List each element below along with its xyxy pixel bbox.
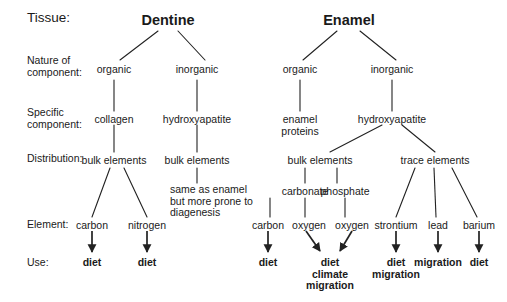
node-dentine-bulk-elements-organic: bulk elements bbox=[82, 155, 147, 167]
use-enamel-barium: diet bbox=[470, 257, 489, 269]
node-dentine-collagen: collagen bbox=[94, 114, 133, 126]
row-label-specific-component: Specific component: bbox=[27, 107, 82, 130]
node-enamel-carbon: carbon bbox=[252, 220, 284, 232]
node-enamel-lead: lead bbox=[428, 220, 448, 232]
node-enamel-organic: organic bbox=[283, 64, 317, 76]
edge-dentine-inorganic bbox=[178, 31, 205, 60]
row-label-tissue: Tissue: bbox=[27, 10, 70, 25]
edge-trace-strontium bbox=[396, 168, 415, 217]
node-dentine-carbon: carbon bbox=[76, 220, 108, 232]
row-label-use: Use: bbox=[27, 257, 49, 269]
edge-enamel-inorganic bbox=[360, 31, 396, 60]
node-enamel-phosphate: phosphate bbox=[320, 186, 369, 198]
node-enamel-proteins: enamel proteins bbox=[281, 114, 318, 137]
node-enamel-inorganic: inorganic bbox=[371, 64, 414, 76]
edge-hap-bulk bbox=[330, 125, 382, 152]
arrow-oxygen-phosphate-use bbox=[340, 231, 352, 251]
edge-trace-barium bbox=[452, 168, 477, 217]
node-enamel-bulk-elements: bulk elements bbox=[288, 155, 353, 167]
node-dentine-hydroxyapatite: hydroxyapatite bbox=[163, 114, 231, 126]
edge-enamel-organic bbox=[303, 31, 337, 60]
arrow-oxygen-carbonate-use bbox=[306, 231, 320, 251]
edge-bulk-carbon bbox=[92, 168, 110, 217]
row-label-distribution: Distribution: bbox=[27, 153, 82, 165]
node-dentine-organic: organic bbox=[97, 64, 131, 76]
node-dentine-nitrogen: nitrogen bbox=[128, 220, 166, 232]
tissue-hierarchy-diagram: Tissue: Nature of component: Specific co… bbox=[0, 0, 507, 302]
use-enamel-oxygen: diet climate migration bbox=[306, 257, 354, 292]
edge-dentine-organic bbox=[120, 31, 158, 60]
row-label-nature-of-component: Nature of component: bbox=[27, 55, 82, 78]
use-enamel-carbon: diet bbox=[259, 257, 278, 269]
node-dentine-inorganic: inorganic bbox=[176, 64, 219, 76]
use-enamel-lead: migration bbox=[414, 257, 462, 269]
use-enamel-strontium: diet migration bbox=[372, 257, 420, 280]
node-enamel-barium: barium bbox=[463, 220, 495, 232]
node-enamel-oxygen-carbonate: oxygen bbox=[292, 220, 326, 232]
row-label-element: Element: bbox=[27, 219, 68, 231]
edge-hap-trace bbox=[402, 125, 435, 152]
node-enamel-trace-elements: trace elements bbox=[401, 155, 470, 167]
title-dentine: Dentine bbox=[141, 12, 194, 28]
note-dentine-diagenesis: same as enamel but more prone to diagene… bbox=[170, 184, 253, 219]
node-enamel-oxygen-phosphate: oxygen bbox=[335, 220, 369, 232]
node-dentine-bulk-elements-inorganic: bulk elements bbox=[165, 155, 230, 167]
use-dentine-carbon: diet bbox=[83, 257, 102, 269]
title-enamel: Enamel bbox=[323, 12, 375, 28]
node-enamel-strontium: strontium bbox=[374, 220, 417, 232]
node-enamel-hydroxyapatite: hydroxyapatite bbox=[358, 114, 426, 126]
edge-bulk-nitrogen bbox=[124, 168, 147, 217]
use-dentine-nitrogen: diet bbox=[138, 257, 157, 269]
edge-trace-lead bbox=[434, 168, 436, 217]
